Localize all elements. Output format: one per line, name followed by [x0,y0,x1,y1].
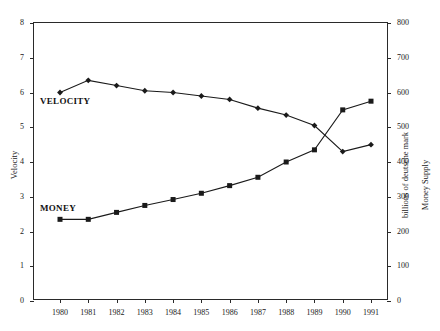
y-axis-tick [30,162,34,163]
y-axis-tick-label: 2 [4,228,24,236]
plot-area: VELOCITY MONEY 0123456780100200300400500… [33,22,388,300]
series-line-velocity [60,80,371,151]
x-axis-tick [286,299,287,303]
y2-axis-tick [387,93,391,94]
y-axis-tick-label: 8 [4,19,24,27]
y2-axis-tick [387,232,391,233]
x-axis-tick-label: 1986 [215,309,245,317]
y-axis-tick [30,93,34,94]
y-axis-tick [30,23,34,24]
series-annotation-money: MONEY [40,203,76,213]
data-point-marker [199,191,204,196]
x-axis-tick [173,299,174,303]
y-axis-tick [30,127,34,128]
chart-figure: · ···· · ·· · ·· ·· · ··· · ·· · VELOCIT… [0,0,440,331]
cut-off-caption: · ···· · ·· · ·· ·· · ··· · ·· · [0,0,440,9]
y-axis-tick-label: 0 [4,297,24,305]
data-point-marker [142,203,147,208]
data-point-marker [340,107,345,112]
x-axis-tick-label: 1988 [271,309,301,317]
series-layer [34,23,389,301]
y2-axis-tick-label: 800 [397,19,423,27]
data-point-marker [312,147,317,152]
y-axis-tick-label: 5 [4,123,24,131]
y2-axis-title: Money Supply [420,145,430,225]
x-axis-tick [371,299,372,303]
y2-axis-tick [387,58,391,59]
x-axis-tick-label: 1980 [45,309,75,317]
data-point-marker [255,175,260,180]
x-axis-tick-label: 1991 [356,309,386,317]
series-line-money [60,101,371,219]
data-point-marker [368,142,374,148]
data-point-marker [114,83,120,89]
data-point-marker [255,105,261,111]
y-axis-tick [30,301,34,302]
x-axis-tick [60,299,61,303]
x-axis-tick [314,299,315,303]
x-axis-tick [343,299,344,303]
x-axis-tick-label: 1987 [243,309,273,317]
x-axis-tick [201,299,202,303]
x-axis-tick-label: 1985 [186,309,216,317]
y2-axis-tick-label: 0 [397,297,423,305]
y-axis-tick [30,266,34,267]
y2-axis-tick [387,162,391,163]
y-axis-tick [30,58,34,59]
x-axis-tick [258,299,259,303]
x-axis-tick-label: 1990 [328,309,358,317]
y2-axis-tick [387,127,391,128]
y2-axis-tick [387,197,391,198]
y-axis-tick [30,197,34,198]
y-axis-title: Velocity [9,135,19,195]
x-axis-tick [117,299,118,303]
series-annotation-velocity: VELOCITY [40,96,90,106]
data-point-marker [58,217,63,222]
x-axis-tick-label: 1982 [102,309,132,317]
data-point-marker [85,77,91,83]
y2-axis-units: billions of deutsche mark [400,110,410,240]
data-point-marker [86,217,91,222]
y2-axis-tick [387,23,391,24]
cut-off-caption-text: · ···· · ·· · ·· ·· · ··· · ·· · [178,0,262,4]
x-axis-tick [230,299,231,303]
data-point-marker [227,97,233,103]
data-point-marker [283,112,289,118]
x-axis-tick-label: 1983 [130,309,160,317]
x-axis-tick-label: 1989 [299,309,329,317]
data-point-marker [198,93,204,99]
y-axis-tick [30,232,34,233]
y-axis-tick-label: 6 [4,89,24,97]
data-point-marker [284,160,289,165]
x-axis-tick [145,299,146,303]
y2-axis-tick [387,266,391,267]
y2-axis-tick-label: 700 [397,54,423,62]
x-axis-tick-label: 1984 [158,309,188,317]
data-point-marker [369,99,374,104]
data-point-marker [142,88,148,94]
data-point-marker [171,197,176,202]
y2-axis-tick [387,301,391,302]
y-axis-tick-label: 1 [4,262,24,270]
y-axis-tick-label: 7 [4,54,24,62]
y2-axis-tick-label: 100 [397,262,423,270]
data-point-marker [170,90,176,96]
data-point-marker [114,210,119,215]
data-point-marker [227,183,232,188]
x-axis-tick [88,299,89,303]
y2-axis-tick-label: 600 [397,89,423,97]
x-axis-tick-label: 1981 [73,309,103,317]
